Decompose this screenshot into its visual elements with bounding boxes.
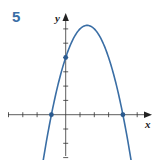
x-axis-label: x <box>144 118 151 130</box>
y-axis-label: y <box>53 12 60 24</box>
parabola-plot: x y <box>0 0 158 160</box>
x-axis-arrow-icon <box>144 112 152 118</box>
intercept-point <box>63 55 68 60</box>
intercept-point <box>121 112 126 117</box>
intercept-point <box>49 112 54 117</box>
marked-points <box>49 55 125 117</box>
parabola-curve <box>41 25 134 160</box>
y-axis-arrow-icon <box>63 13 69 21</box>
